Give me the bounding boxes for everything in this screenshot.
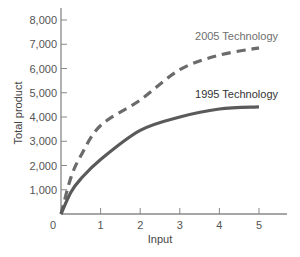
series-2005-label: 2005 Technology [195,30,278,42]
origin-label: 0 [50,219,56,231]
x-tick-label: 3 [177,219,183,231]
total-product-chart: 1,0002,0003,0004,0005,0006,0007,0008,000… [0,0,300,257]
y-tick-label: 2,000 [29,160,57,172]
x-axis-title: Input [148,233,172,245]
x-axis-ticks: 12345 [98,208,263,231]
y-tick-label: 6,000 [29,63,57,75]
y-tick-label: 4,000 [29,111,57,123]
series-1995-technology-curve [61,107,259,214]
y-tick-label: 8,000 [29,14,57,26]
y-axis-title: Total product [12,82,24,145]
x-tick-label: 5 [256,219,262,231]
series-1995-label: 1995 Technology [195,88,278,100]
x-tick-label: 2 [137,219,143,231]
x-tick-label: 4 [216,219,222,231]
y-tick-label: 7,000 [29,38,57,50]
x-tick-label: 1 [98,219,104,231]
y-tick-label: 3,000 [29,135,57,147]
series-2005-technology-curve [61,48,259,214]
y-tick-label: 5,000 [29,87,57,99]
y-tick-label: 1,000 [29,184,57,196]
